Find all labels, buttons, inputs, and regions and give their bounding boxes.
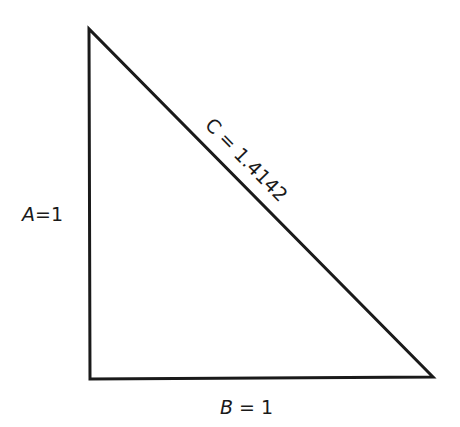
right-triangle (89, 29, 433, 379)
side-b-label: B = 1 (220, 396, 273, 418)
svg-text:C = 1.4142: C = 1.4142 (201, 113, 292, 205)
svg-text:A=1: A=1 (20, 203, 63, 225)
side-a-label: A=1 (20, 203, 63, 225)
svg-text:B = 1: B = 1 (220, 396, 273, 418)
triangle-diagram: A=1 B = 1 C = 1.4142 (0, 0, 460, 427)
side-c-label: C = 1.4142 (201, 113, 292, 205)
